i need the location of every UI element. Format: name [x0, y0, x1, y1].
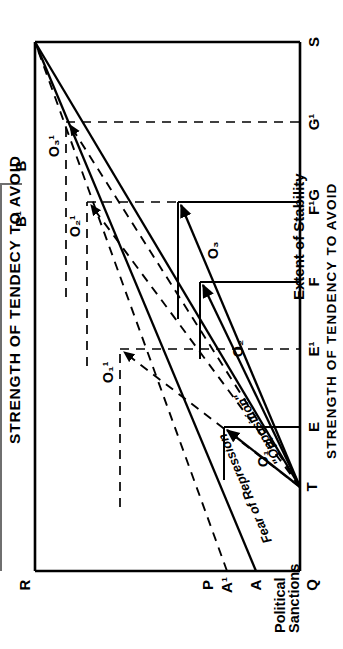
- political-sanctions-line2: Sanctions: [286, 564, 302, 633]
- rotated-figure-container: STRENGTH OF TENDECY TO AVOID Maximum Pol…: [0, 0, 343, 649]
- annotation-O1: O₁: [255, 450, 271, 467]
- x-axis-caption-text: Extent of Stability: [290, 173, 307, 300]
- figure-svg: STRENGTH OF TENDECY TO AVOID Maximum Pol…: [0, 0, 343, 649]
- axis-tick-S: S: [305, 37, 322, 47]
- x-axis-caption: Extent of Stability: [290, 173, 307, 300]
- annotation-O3-prime: O₃¹: [46, 135, 62, 157]
- axis-tick-E-prime: E¹: [305, 341, 322, 356]
- axis-label-T: T: [303, 482, 320, 491]
- annotation-O1-prime: O₁¹: [100, 361, 116, 383]
- political-sanctions-group: Political Sanctions: [272, 564, 302, 633]
- axis-tick-E: E: [305, 422, 322, 432]
- annotation-O2: O₂: [230, 340, 246, 357]
- axis-tick-F: F: [305, 277, 322, 286]
- curve-label-B: B: [12, 160, 29, 171]
- axis-tick-G-prime: G¹: [305, 114, 322, 131]
- annotation-O3: O₃: [205, 242, 221, 259]
- figure-page: STRENGTH OF TENDECY TO AVOID Maximum Pol…: [0, 0, 343, 649]
- axis-label-Q: Q: [303, 579, 320, 591]
- figure-title: STRENGTH OF TENDECY TO AVOID: [6, 155, 23, 444]
- series-avoidance-O2: [203, 285, 300, 487]
- annotation-O2-prime: O₂¹: [67, 215, 83, 237]
- axis-tick-FG: F¹G: [305, 189, 322, 215]
- axis-label-R: R: [16, 579, 33, 590]
- axis-label-A-prime: A¹: [218, 577, 235, 593]
- axis-label-A: A: [247, 579, 264, 590]
- y-axis-label: STRENGTH OF TENDENCY TO AVOID: [324, 182, 339, 459]
- curve-label-B-prime: B¹: [12, 211, 29, 227]
- axis-label-P: P: [199, 580, 216, 590]
